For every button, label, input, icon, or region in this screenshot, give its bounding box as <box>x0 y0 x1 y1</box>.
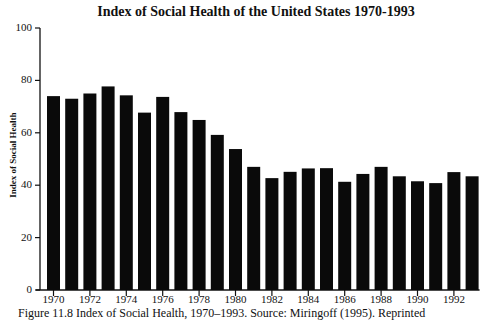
bar-1990 <box>411 181 424 290</box>
bar-chart: 0204060801001970197219741976197819801982… <box>0 0 482 320</box>
x-tick-label: 1990 <box>398 293 438 305</box>
x-tick-label: 1986 <box>325 293 365 305</box>
y-tick-label: 80 <box>2 73 32 85</box>
y-tick-label: 20 <box>2 231 32 243</box>
x-tick-label: 1974 <box>106 293 146 305</box>
figure-caption: Figure 11.8 Index of Social Health, 1970… <box>18 306 425 320</box>
chart-canvas <box>0 0 482 320</box>
y-tick-label: 100 <box>2 21 32 33</box>
bar-1992 <box>447 172 460 290</box>
y-tick-label: 60 <box>2 126 32 138</box>
bar-1983 <box>284 172 297 290</box>
x-tick-label: 1984 <box>288 293 328 305</box>
x-tick-label: 1992 <box>434 293 474 305</box>
bar-1973 <box>102 86 115 290</box>
x-tick-label: 1982 <box>252 293 292 305</box>
bar-1991 <box>429 183 442 290</box>
x-tick-label: 1972 <box>70 293 110 305</box>
bar-1975 <box>138 113 151 290</box>
bar-1980 <box>229 149 242 290</box>
bar-1981 <box>247 167 260 290</box>
x-tick-label: 1978 <box>179 293 219 305</box>
bar-1985 <box>320 168 333 290</box>
bar-1978 <box>193 120 206 290</box>
bar-1971 <box>65 99 78 290</box>
bar-1984 <box>302 168 315 290</box>
bar-1982 <box>265 178 278 290</box>
bar-1974 <box>120 95 133 290</box>
x-tick-label: 1988 <box>361 293 401 305</box>
bar-1986 <box>338 182 351 290</box>
bar-1988 <box>375 167 388 290</box>
bar-1989 <box>393 176 406 290</box>
bar-1972 <box>83 94 96 291</box>
x-tick-label: 1970 <box>34 293 74 305</box>
bar-1987 <box>356 174 369 290</box>
bar-1976 <box>156 97 169 290</box>
bar-1993 <box>466 176 479 290</box>
bar-1979 <box>211 135 224 290</box>
x-tick-label: 1980 <box>216 293 256 305</box>
bar-1977 <box>174 112 187 290</box>
bar-1970 <box>47 96 60 290</box>
y-tick-label: 0 <box>2 283 32 295</box>
x-tick-label: 1976 <box>143 293 183 305</box>
y-tick-label: 40 <box>2 178 32 190</box>
